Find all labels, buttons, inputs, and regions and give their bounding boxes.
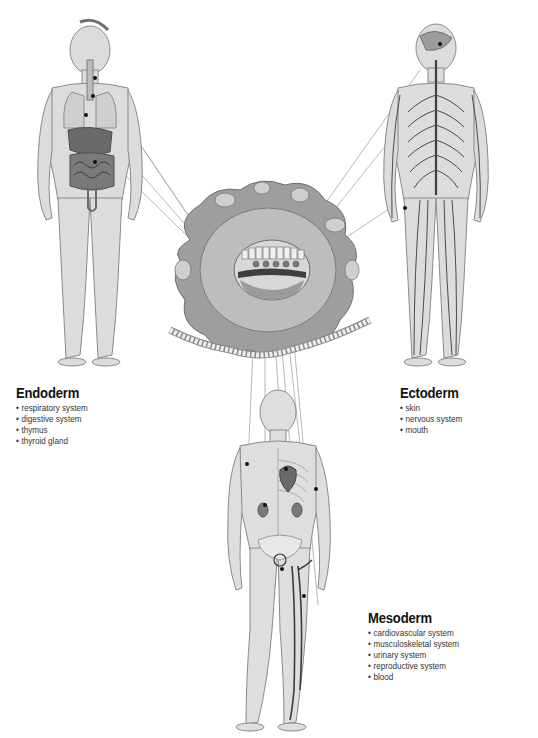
ectoderm-list: skin nervous system mouth: [400, 403, 469, 436]
list-item: skin: [400, 403, 462, 414]
ectoderm-figure: [384, 24, 489, 366]
list-item: urinary system: [368, 650, 459, 661]
list-item: thymus: [16, 425, 88, 436]
mesoderm-list: cardiovascular system musculoskeletal sy…: [368, 628, 469, 683]
mesoderm-caption: Mesoderm cardiovascular system musculosk…: [368, 610, 469, 683]
list-item: respiratory system: [16, 403, 88, 414]
endoderm-caption: Endoderm respiratory system digestive sy…: [16, 385, 96, 447]
mesoderm-figure: [228, 390, 331, 731]
endoderm-heading: Endoderm: [16, 385, 88, 401]
list-item: digestive system: [16, 414, 88, 425]
ectoderm-caption: Ectoderm skin nervous system mouth: [400, 385, 469, 436]
list-item: musculoskeletal system: [368, 639, 459, 650]
endoderm-list: respiratory system digestive system thym…: [16, 403, 96, 447]
germ-layer-diagram: Endoderm respiratory system digestive sy…: [0, 0, 538, 738]
list-item: thyroid gland: [16, 436, 88, 447]
list-item: nervous system: [400, 414, 462, 425]
list-item: reproductive system: [368, 661, 459, 672]
list-item: mouth: [400, 425, 462, 436]
endoderm-figure: [38, 20, 143, 366]
embryo-icon: [170, 181, 370, 355]
list-item: cardiovascular system: [368, 628, 459, 639]
list-item: blood: [368, 672, 459, 683]
ectoderm-heading: Ectoderm: [400, 385, 462, 401]
mesoderm-heading: Mesoderm: [368, 610, 459, 626]
